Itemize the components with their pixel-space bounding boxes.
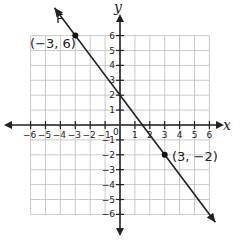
y-tick-label: −5 — [102, 195, 115, 205]
y-tick-label: 1 — [109, 105, 115, 115]
data-point — [162, 152, 168, 158]
line-label-f: F — [56, 11, 63, 26]
x-tick-label: −2 — [83, 130, 96, 140]
coordinate-plane: −6−5−4−3−2−1123456654321−1−2−3−4−5−6 x y… — [0, 0, 241, 244]
origin-label: 0 — [113, 127, 119, 137]
y-tick-label: 5 — [109, 46, 115, 56]
y-axis-up-arrow-icon — [116, 14, 124, 22]
y-tick-label: −4 — [102, 180, 116, 190]
x-axis-label: x — [223, 117, 231, 133]
x-tick-label: 4 — [177, 130, 183, 140]
y-tick-label: 6 — [109, 31, 115, 41]
y-axis-down-arrow-icon — [116, 228, 124, 236]
x-tick-label: 1 — [132, 130, 138, 140]
x-tick-label: −4 — [53, 130, 67, 140]
x-tick-label: 5 — [192, 130, 198, 140]
y-tick-label: 2 — [109, 90, 115, 100]
x-axis-left-arrow-icon — [4, 121, 12, 129]
x-tick-label: −6 — [23, 130, 37, 140]
y-tick-label: −2 — [102, 150, 115, 160]
x-tick-label: 3 — [162, 130, 168, 140]
x-tick-label: 6 — [207, 130, 213, 140]
y-tick-label: 4 — [109, 60, 115, 70]
y-axis-label: y — [113, 0, 123, 15]
x-tick-label: −3 — [68, 130, 81, 140]
point-label-neg3-6: (−3, 6) — [30, 36, 76, 51]
x-tick-label: −5 — [38, 130, 51, 140]
point-label-3-neg2: (3, −2) — [172, 149, 218, 164]
y-tick-label: −6 — [102, 209, 116, 219]
y-tick-label: −3 — [102, 165, 115, 175]
